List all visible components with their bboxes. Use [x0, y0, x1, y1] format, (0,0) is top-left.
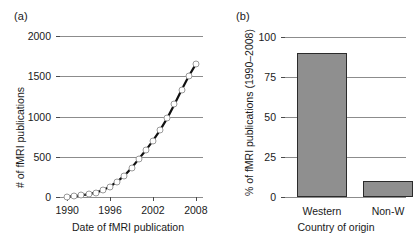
panel-a-data-point [142, 147, 149, 154]
panel-b-y-tick-label: 50 [203, 111, 276, 123]
panel-a-data-point [185, 73, 192, 80]
panel-a-data-point [157, 127, 164, 134]
panel-b-gridline [285, 197, 406, 198]
panel-b-category-label: Western [303, 205, 342, 217]
panel-a: (a) # of fMRI publications 0500100015002… [0, 0, 203, 246]
panel-b-category-label: Non-W [372, 205, 405, 217]
panel-a-x-tick-label: 2002 [141, 204, 164, 216]
panel-b-y-tick-label: 100 [203, 31, 276, 43]
panel-a-data-point [85, 191, 92, 198]
panel-b-y-tick [281, 117, 285, 118]
panel-a-data-point [149, 137, 156, 144]
panel-b-x-axis-title: Country of origin [297, 221, 374, 233]
panel-a-data-point [135, 156, 142, 163]
panel-a-plot-area [60, 36, 203, 197]
panel-b: (b) % of fMRI publications (1990–2008) 0… [203, 0, 406, 246]
panel-a-data-point [121, 172, 128, 179]
panel-a-data-point [192, 61, 199, 68]
panel-b-y-tick [281, 197, 285, 198]
panel-b-y-tick-label: 25 [203, 151, 276, 163]
panel-a-y-axis-title: # of fMRI publications [14, 87, 26, 188]
panel-a-x-tick-label: 1996 [98, 204, 121, 216]
panel-a-x-tick-label: 1990 [55, 204, 78, 216]
panel-a-data-point [78, 192, 85, 199]
panel-b-y-tick [281, 157, 285, 158]
panel-b-gridline [285, 37, 406, 38]
panel-a-y-tick-label: 1500 [0, 70, 51, 82]
panel-a-data-point [128, 165, 135, 172]
panel-a-x-tick [196, 197, 197, 201]
panel-a-data-point [114, 178, 121, 185]
panel-a-x-tick [153, 197, 154, 201]
panel-b-bar [297, 53, 347, 197]
panel-a-data-point [99, 187, 106, 194]
panel-b-bar [363, 181, 413, 197]
panel-b-label: (b) [236, 10, 250, 22]
panel-a-data-point [64, 193, 71, 200]
panel-a-y-tick [56, 197, 60, 198]
panel-a-data-point [107, 183, 114, 190]
panel-a-data-point [171, 101, 178, 108]
panel-a-data-point [92, 189, 99, 196]
panel-a-y-tick-label: 500 [0, 151, 51, 163]
panel-a-y-tick-label: 0 [0, 191, 51, 203]
panel-b-y-tick [281, 77, 285, 78]
panel-a-data-point [71, 193, 78, 200]
panel-a-data-point [164, 115, 171, 122]
panel-a-series-line [60, 36, 203, 197]
panel-a-y-tick-label: 1000 [0, 111, 51, 123]
panel-a-label: (a) [14, 10, 28, 22]
panel-a-y-tick-label: 2000 [0, 30, 51, 42]
panel-b-plot-area [285, 37, 406, 197]
panel-a-x-tick [110, 197, 111, 201]
panel-b-y-tick-label: 75 [203, 71, 276, 83]
panel-a-data-point [178, 86, 185, 93]
panel-b-y-tick [281, 37, 285, 38]
panel-b-y-tick-label: 0 [203, 191, 276, 203]
panel-a-x-axis-title: Date of fMRI publication [72, 221, 184, 233]
